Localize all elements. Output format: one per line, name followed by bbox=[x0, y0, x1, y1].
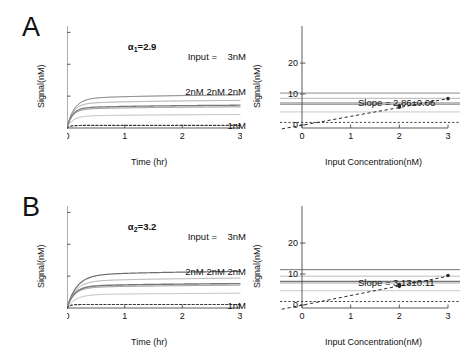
svg-text:0: 0 bbox=[299, 311, 304, 321]
svg-text:1: 1 bbox=[122, 311, 127, 321]
panel-a-slope-label: Slope = 2.86±0.06 bbox=[358, 97, 435, 108]
figure-root: A 1020300123 Signal(nM) Time (hr) 010200… bbox=[0, 0, 471, 359]
panel-a: A 1020300123 Signal(nM) Time (hr) 010200… bbox=[0, 0, 471, 179]
panel-b-left-ylabel: Signal(nM) bbox=[36, 244, 46, 288]
svg-text:0: 0 bbox=[293, 120, 298, 130]
panel-b-input-annotation: Input = 3nM 2nM 2nM 2nM 1nM bbox=[168, 208, 246, 335]
panel-b-alpha-annotation: α2=3.2 bbox=[112, 210, 156, 246]
svg-text:0: 0 bbox=[299, 131, 304, 141]
panel-b-dose-response-plot: 010200123 bbox=[280, 202, 460, 324]
panel-a-input-annotation: Input = 3nM 2nM 2nM 2nM 1nM bbox=[168, 28, 246, 155]
data-point bbox=[446, 97, 450, 101]
panel-a-dose-response-svg: 010200123 bbox=[280, 22, 460, 144]
panel-b-right-xlabel: Input Concentration(nM) bbox=[325, 337, 422, 347]
svg-text:0: 0 bbox=[67, 131, 70, 141]
panel-b-input-line2: 2nM 2nM 2nM bbox=[168, 266, 246, 278]
svg-text:0: 0 bbox=[67, 311, 70, 321]
svg-text:1: 1 bbox=[348, 131, 353, 141]
panel-a-right-ylabel: Signal(nM) bbox=[252, 64, 262, 108]
panel-letter-b: B bbox=[22, 194, 40, 221]
panel-a-input-line1: Input = 3nM bbox=[168, 51, 246, 63]
panel-a-dose-response-plot: 010200123 bbox=[280, 22, 460, 144]
svg-text:2: 2 bbox=[397, 131, 402, 141]
panel-a-alpha-value: =2.9 bbox=[138, 41, 157, 52]
panel-b-input-line3: 1nM bbox=[168, 300, 246, 312]
panel-b-input-line1: Input = 3nM bbox=[168, 231, 246, 243]
panel-a-alpha-annotation: α1=2.9 bbox=[112, 30, 156, 66]
svg-text:10: 10 bbox=[288, 89, 298, 99]
svg-text:2: 2 bbox=[397, 311, 402, 321]
panel-b-right-ylabel: Signal(nM) bbox=[252, 244, 262, 288]
svg-text:20: 20 bbox=[288, 238, 298, 248]
panel-b-slope-label: Slope = 3.13±0.11 bbox=[358, 277, 435, 288]
panel-b-alpha-value: =3.2 bbox=[138, 221, 157, 232]
data-point bbox=[446, 274, 450, 278]
svg-text:3: 3 bbox=[445, 311, 450, 321]
svg-text:20: 20 bbox=[288, 58, 298, 68]
panel-b-left-xlabel: Time (hr) bbox=[131, 337, 167, 347]
svg-text:1: 1 bbox=[122, 131, 127, 141]
panel-letter-a: A bbox=[22, 14, 40, 41]
svg-text:0: 0 bbox=[293, 300, 298, 310]
svg-text:1: 1 bbox=[348, 311, 353, 321]
panel-a-input-line3: 1nM bbox=[168, 120, 246, 132]
panel-b: B 1020300123 Signal(nM) Time (hr) 010200… bbox=[0, 180, 471, 359]
panel-a-right-xlabel: Input Concentration(nM) bbox=[325, 157, 422, 167]
svg-text:10: 10 bbox=[288, 269, 298, 279]
panel-a-input-line2: 2nM 2nM 2nM bbox=[168, 86, 246, 98]
panel-a-left-ylabel: Signal(nM) bbox=[36, 64, 46, 108]
panel-b-dose-response-svg: 010200123 bbox=[280, 202, 460, 324]
svg-text:3: 3 bbox=[445, 131, 450, 141]
panel-a-left-xlabel: Time (hr) bbox=[131, 157, 167, 167]
